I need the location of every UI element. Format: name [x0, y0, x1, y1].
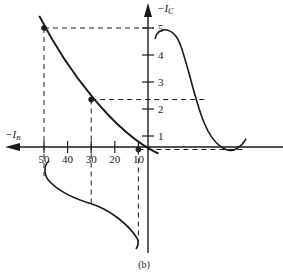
operating-point: [88, 97, 94, 103]
transfer-curve: [39, 16, 158, 154]
x-axis-arrow-icon: [5, 143, 20, 151]
operating-point: [136, 147, 142, 153]
operating-point: [41, 25, 47, 31]
output-current-waveform: [155, 30, 246, 151]
figure-caption: (b): [138, 259, 150, 271]
y-tick-label: 2: [158, 103, 164, 115]
y-tick-label: 1: [158, 130, 164, 142]
y-tick-label: 3: [158, 76, 164, 88]
transfer-diagram: 54321 5040302010 −IC −IB (b): [0, 0, 283, 274]
x-tick-label: 20: [109, 153, 121, 165]
x-tick-label: 40: [62, 153, 74, 165]
y-axis-arrow-icon: [144, 3, 152, 17]
x-axis-label: −IB: [5, 128, 21, 142]
y-tick-label: 4: [158, 49, 164, 61]
y-axis-label: −IC: [157, 2, 174, 16]
